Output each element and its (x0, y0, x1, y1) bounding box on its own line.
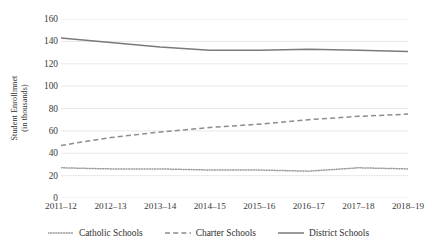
legend-entry-charter-schools: Charter Schools (165, 228, 256, 238)
y-axis-tick: 60 (22, 126, 58, 136)
legend-label: District Schools (309, 228, 369, 238)
legend-swatch-solid-icon (278, 228, 304, 238)
y-axis-title-line1: Student Enrollmnet (10, 38, 20, 178)
series-line-charter-schools (61, 114, 408, 145)
legend-entry-district-schools: District Schools (278, 228, 369, 238)
x-axis-tick: 2018–19 (378, 201, 429, 211)
y-axis-tick: 120 (22, 59, 58, 69)
y-axis-tick: 160 (22, 14, 58, 24)
x-axis-tick-labels: 2011–122012–132013–142014–152015–162016–… (61, 201, 408, 217)
plot-area (61, 19, 408, 198)
y-axis-tick-labels: 160140120100806040200 (20, 0, 58, 249)
y-axis-tick: 140 (22, 36, 58, 46)
y-axis-tick: 100 (22, 81, 58, 91)
legend-label: Charter Schools (196, 228, 256, 238)
legend-swatch-dotted-icon (48, 228, 74, 238)
legend-swatch-dashed-icon (165, 228, 191, 238)
y-axis-tick: 80 (22, 104, 58, 114)
legend-label: Catholic Schools (79, 228, 143, 238)
y-axis-tick: 40 (22, 148, 58, 158)
data-series-layer (61, 19, 408, 198)
series-line-district-schools (61, 38, 408, 51)
y-axis-tick: 20 (22, 171, 58, 181)
chart-legend: Catholic SchoolsCharter SchoolsDistrict … (0, 228, 417, 238)
legend-entry-catholic-schools: Catholic Schools (48, 228, 143, 238)
series-line-catholic-schools (61, 168, 408, 171)
